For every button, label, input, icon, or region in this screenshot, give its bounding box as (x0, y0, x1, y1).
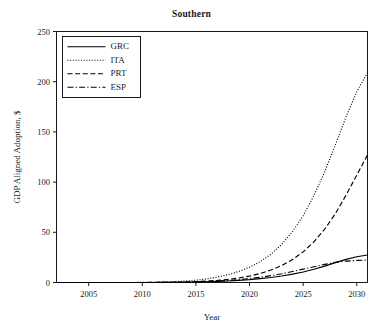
y-axis-title: GDP Aligned Adoption, $ (12, 110, 22, 204)
y-tick-label: 150 (37, 127, 50, 137)
x-tick-label: 2015 (187, 289, 204, 299)
legend-label-ita: ITA (111, 55, 126, 65)
x-tick-label: 2020 (241, 289, 258, 299)
y-tick-label: 50 (42, 227, 51, 237)
y-tick-label: 100 (37, 177, 50, 187)
x-axis-title: Year (204, 312, 221, 322)
chart-legend: GRCITAPRTESP (63, 37, 141, 98)
x-tick-label: 2025 (295, 289, 312, 299)
x-tick-label: 2030 (348, 289, 365, 299)
legend-label-grc: GRC (111, 41, 130, 51)
series-line-esp (57, 260, 368, 282)
y-tick-label: 0 (46, 278, 50, 288)
x-tick-label: 2010 (134, 289, 151, 299)
y-tick-label: 250 (37, 27, 50, 37)
plot-area: 200520102015202020252030050100150200250 … (0, 0, 383, 325)
x-tick-label: 2005 (80, 289, 97, 299)
y-tick-label: 200 (37, 77, 50, 87)
series-line-prt (57, 155, 368, 283)
series-line-grc (57, 255, 368, 283)
legend-label-prt: PRT (111, 68, 127, 78)
legend-label-esp: ESP (111, 82, 127, 92)
series-line-ita (57, 73, 368, 283)
chart-figure: Southern 2005201020152020202520300501001… (0, 0, 383, 325)
series-group (57, 73, 368, 283)
